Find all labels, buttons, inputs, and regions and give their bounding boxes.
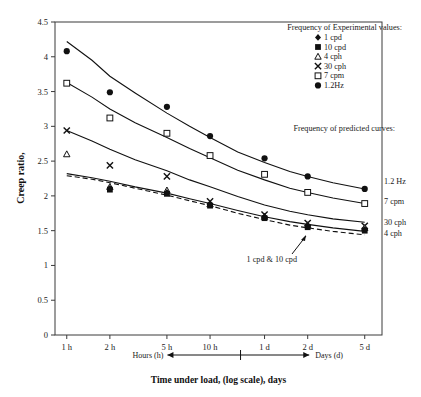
y-tick-label: 3: [44, 121, 48, 131]
data-point-1-2hz: [107, 89, 113, 95]
legend-label: 4 cph: [324, 52, 342, 61]
y-tick-label: 1: [44, 260, 48, 270]
y-tick-label: 2: [44, 191, 48, 201]
x-tick-label: 1 h: [61, 342, 72, 352]
data-point-1-2hz: [362, 186, 368, 192]
data-point-7-cpm: [164, 130, 170, 136]
annotation-1cpd-10cpd: 1 cpd & 10 cpd: [247, 255, 297, 264]
data-point-7-cpm: [64, 80, 70, 86]
legend-title-predicted: Frequency of predicted curves:: [293, 124, 395, 133]
data-point-30-cph: [164, 173, 170, 179]
data-point-1-2hz: [261, 155, 267, 161]
hours-range-label: Hours (h): [133, 351, 164, 360]
chart-canvas: 00.511.522.533.544.51 h2 h5 h10 h1 d2 d5…: [0, 0, 421, 397]
data-point-7-cpm: [305, 190, 311, 196]
annotation-arrow-head: [301, 235, 306, 241]
data-point-30-cph: [64, 127, 70, 133]
curve-label: 1.2 Hz: [384, 177, 406, 186]
curve-label: 30 cph: [384, 218, 406, 227]
legend-label: 7 cpm: [324, 71, 345, 80]
legend-marker-30-cph: [315, 63, 321, 69]
curve-label: 4 cph: [384, 229, 402, 238]
predicted-curve-30-cph: [67, 131, 365, 223]
data-point-1-2hz: [164, 104, 170, 110]
y-tick-label: 0.5: [37, 295, 48, 305]
legend-label: 1.2Hz: [324, 81, 344, 90]
y-tick-label: 4.5: [37, 17, 48, 27]
x-tick-label: 10 h: [203, 342, 219, 352]
legend-marker-7-cpm: [315, 73, 321, 79]
legend-marker-10-cpd: [315, 44, 321, 50]
x-axis-title: Time under load, (log scale), days: [151, 375, 287, 386]
data-point-7-cpm: [362, 201, 368, 207]
days-range-label: Days (d): [315, 351, 343, 360]
legend-marker-4-cph: [315, 53, 321, 59]
y-tick-label: 3.5: [37, 87, 48, 97]
legend-label: 10 cpd: [324, 43, 346, 52]
data-point-1-2hz: [64, 48, 70, 54]
legend-label: 30 cph: [324, 62, 346, 71]
y-tick-label: 2.5: [37, 156, 48, 166]
data-point-4-cph: [64, 151, 70, 157]
legend-marker-1-2hz: [315, 82, 321, 88]
range-arrow-head-left: [167, 352, 173, 358]
y-tick-label: 0: [44, 330, 48, 340]
data-point-7-cpm: [207, 153, 213, 159]
data-point-1-2hz: [305, 173, 311, 179]
x-tick-label: 2 h: [105, 342, 116, 352]
predicted-curve-4-cph: [67, 174, 365, 232]
range-arrow-head-right: [303, 352, 309, 358]
creep-ratio-chart: 00.511.522.533.544.51 h2 h5 h10 h1 d2 d5…: [0, 0, 421, 397]
y-tick-label: 4: [44, 52, 49, 62]
x-tick-label: 5 d: [359, 342, 370, 352]
legend-marker-1-cpd: [315, 34, 321, 41]
data-point-30-cph: [107, 162, 113, 168]
curve-label: 7 cpm: [384, 197, 405, 206]
x-tick-label: 1 d: [259, 342, 270, 352]
data-point-7-cpm: [262, 171, 268, 177]
legend-title-experimental: Frequency of Experimental values:: [287, 23, 402, 32]
y-axis-title: Creep ratio,: [15, 152, 26, 204]
data-point-1-2hz: [207, 133, 213, 139]
x-tick-label: 2 d: [302, 342, 313, 352]
data-point-7-cpm: [107, 115, 113, 121]
y-tick-label: 1.5: [37, 226, 48, 236]
legend-label: 1 cpd: [324, 33, 342, 42]
